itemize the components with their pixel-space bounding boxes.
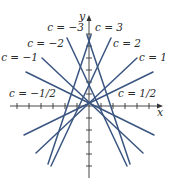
label-c--1: c = −1 (1, 51, 38, 63)
x-axis-label: x (157, 106, 164, 119)
line-c-3 (48, 35, 91, 164)
line-labels: c = −3c = 3c = −2c = 2c = −1c = 1c = −1/… (1, 21, 167, 99)
line-family-diagram: x y c = −3c = 3c = −2c = 2c = −1c = 1c =… (0, 0, 173, 187)
label-c--2: c = −2 (27, 37, 64, 49)
line-c-2 (51, 38, 111, 166)
line-c--2 (67, 38, 127, 166)
label-c--1_2: c = −1/2 (9, 87, 56, 99)
label-c-2: c = 2 (113, 37, 141, 49)
label-c-1: c = 1 (139, 51, 167, 63)
y-axis-arrow-icon (87, 15, 92, 21)
label-c--3: c = −3 (47, 21, 84, 33)
label-c-1_2: c = 1/2 (118, 87, 157, 99)
label-c-3: c = 3 (95, 21, 123, 33)
